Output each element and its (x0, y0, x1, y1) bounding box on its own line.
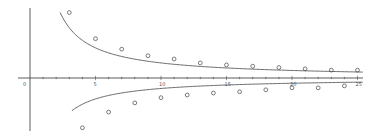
data-point-marker (107, 110, 111, 114)
upper-curve (60, 13, 363, 73)
data-point-marker (277, 66, 281, 70)
x-tick-label: 5 (94, 81, 97, 87)
data-points (67, 11, 359, 130)
x-tick-label: 15 (225, 81, 231, 87)
data-point-marker (212, 91, 216, 95)
data-point-marker (67, 11, 71, 15)
data-point-marker (264, 88, 268, 92)
x-tick-label: 0 (23, 81, 26, 87)
data-point-marker (81, 126, 85, 130)
data-point-marker (146, 54, 150, 58)
data-point-marker (185, 93, 189, 97)
data-point-marker (94, 37, 98, 41)
data-point-marker (225, 63, 229, 67)
data-point-marker (251, 64, 255, 68)
curves (60, 13, 363, 111)
data-point-marker (303, 67, 307, 71)
axes (18, 8, 363, 131)
data-point-marker (356, 68, 360, 72)
data-point-marker (133, 101, 137, 105)
data-point-marker (172, 57, 176, 61)
data-point-marker (159, 96, 163, 100)
x-tick-label: 10 (159, 81, 165, 87)
data-point-marker (198, 61, 202, 65)
data-point-marker (238, 90, 242, 94)
data-point-marker (120, 47, 124, 51)
data-point-marker (316, 86, 320, 90)
data-point-marker (343, 84, 347, 88)
chart: 0510152025 (0, 0, 376, 139)
